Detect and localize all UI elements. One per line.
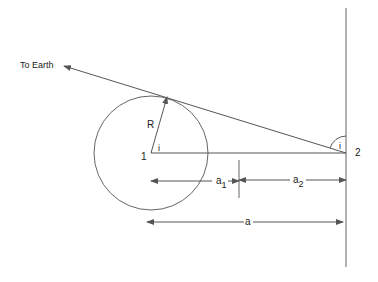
orbit-geometry-diagram: To Earth R 1 i 2 i a1 a2 a <box>0 0 378 282</box>
label-a1: a1 <box>216 175 227 190</box>
label-a2: a2 <box>293 174 304 189</box>
label-point-1: 1 <box>141 151 147 162</box>
line-to-earth <box>64 66 346 153</box>
label-to-earth: To Earth <box>20 60 54 70</box>
label-point-2: 2 <box>355 147 361 158</box>
label-angle-1: i <box>158 143 160 153</box>
label-angle-2: i <box>339 141 341 151</box>
label-radius: R <box>147 119 154 130</box>
label-a: a <box>245 216 251 227</box>
angle-arc-2 <box>330 136 346 148</box>
